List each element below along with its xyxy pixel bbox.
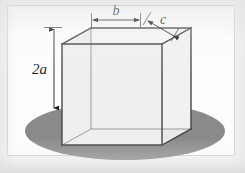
geometry-figure: 2a b c — [0, 0, 245, 173]
width-label: b — [113, 3, 120, 18]
height-label: 2a — [32, 61, 47, 77]
depth-extension-tick-near — [143, 12, 151, 25]
depth-label: c — [160, 12, 167, 27]
height-dimension: 2a — [32, 28, 62, 109]
width-dimension: b — [92, 3, 141, 27]
box-front-face — [62, 44, 162, 145]
figure-page: 2a b c — [0, 0, 245, 173]
box-right-face — [162, 28, 191, 145]
